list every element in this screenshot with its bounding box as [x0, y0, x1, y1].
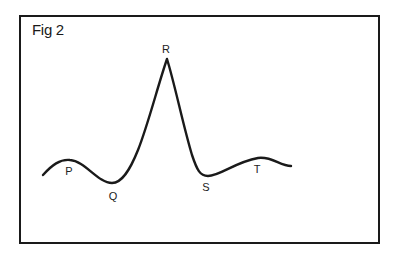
ecg-waveform: [0, 0, 399, 259]
label-r-wave: R: [162, 43, 170, 55]
label-p-wave: P: [65, 165, 72, 177]
label-q-wave: Q: [109, 190, 118, 202]
label-s-wave: S: [202, 181, 209, 193]
label-t-wave: T: [254, 163, 261, 175]
